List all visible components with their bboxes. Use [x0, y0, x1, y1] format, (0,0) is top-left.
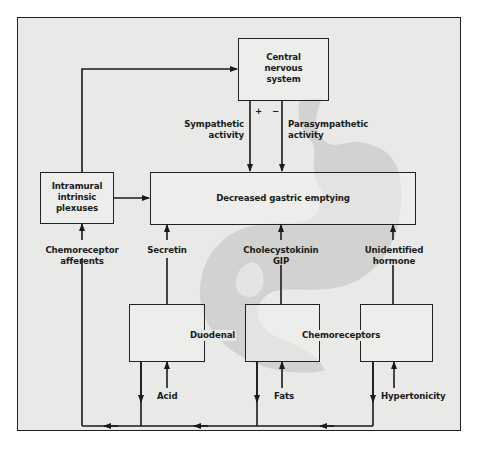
- chemo-afferents-line1: Chemoreceptor: [42, 245, 122, 256]
- cns-label-line2: nervous: [238, 63, 329, 74]
- sympathetic-label: Sympathetic activity: [180, 119, 244, 141]
- unidentified-hormone-label: Unidentified hormone: [358, 245, 430, 267]
- acid-label: Acid: [157, 391, 177, 402]
- cns-label-line3: system: [238, 74, 329, 85]
- unidentified-label-line1: Unidentified: [358, 245, 430, 256]
- parasympathetic-label-line1: Parasympathetic: [288, 119, 368, 130]
- parasympathetic-label-line2: activity: [288, 130, 368, 141]
- parasympathetic-label: Parasympathetic activity: [288, 119, 368, 141]
- chemo-afferents-line2: afferents: [42, 256, 122, 267]
- plexuses-label-line2: intrinsic: [40, 192, 114, 203]
- unidentified-label-line2: hormone: [358, 256, 430, 267]
- cck-label-line2: GIP: [236, 256, 326, 267]
- cns-label-line1: Central: [238, 52, 329, 63]
- secretin-label: Secretin: [137, 245, 197, 256]
- main-outcome-label: Decreased gastric emptying: [150, 193, 416, 204]
- duodenal-label: Duodenal: [189, 330, 236, 341]
- chemoreceptor-afferents-label: Chemoreceptor afferents: [42, 245, 122, 267]
- chemoreceptors-label: Chemoreceptors: [301, 330, 381, 341]
- cck-label-line1: Cholecystokinin: [236, 245, 326, 256]
- sympathetic-label-line2: activity: [180, 130, 244, 141]
- plexuses-label-line3: plexuses: [40, 203, 114, 214]
- cns-label: Central nervous system: [238, 52, 329, 85]
- hypertonicity-label: Hypertonicity: [381, 391, 446, 402]
- plus-sign: +: [255, 106, 262, 117]
- minus-sign: −: [272, 106, 279, 117]
- fats-label: Fats: [274, 391, 294, 402]
- plexuses-label: Intramural intrinsic plexuses: [40, 181, 114, 214]
- cck-gip-label: Cholecystokinin GIP: [236, 245, 326, 267]
- plexuses-label-line1: Intramural: [40, 181, 114, 192]
- sympathetic-label-line1: Sympathetic: [180, 119, 244, 130]
